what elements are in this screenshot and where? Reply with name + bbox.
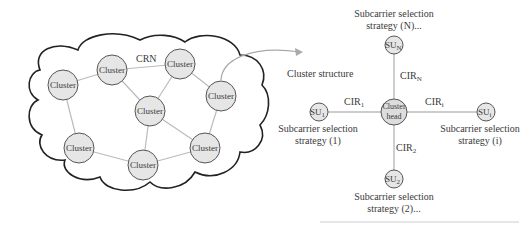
cluster-node-label: Cluster	[201, 90, 241, 102]
cluster-node-label: Cluster	[43, 79, 83, 91]
cluster-node-label: Cluster	[59, 142, 99, 154]
su-bottom-label: SU2	[385, 173, 400, 188]
caption-top: Subcarrier selection strategy (N)...	[344, 8, 444, 32]
cir-bottom-label: CIR2	[396, 142, 416, 157]
su-right-label: SUi	[478, 106, 491, 121]
cir-left-label: CIR1	[344, 96, 364, 111]
cir-right-label: CIRi	[425, 96, 444, 111]
cluster-node-label: Cluster	[160, 58, 200, 70]
cluster-structure-title: Cluster structure	[287, 68, 353, 80]
cir-top-label: CIRN	[400, 70, 422, 85]
cluster-head-line1: Cluster	[380, 102, 408, 112]
caption-bottom: Subcarrier selection strategy (2)...	[344, 191, 444, 215]
su-left-label: SU1	[310, 106, 325, 121]
caption-right: Subcarrier selection strategy (i)	[430, 123, 529, 147]
diagram-canvas	[0, 0, 529, 231]
crn-label: CRN	[136, 53, 157, 65]
cluster-node-label: Cluster	[130, 105, 170, 117]
cluster-head-label: Cluster head	[380, 102, 408, 122]
cluster-node-label: Cluster	[185, 142, 225, 154]
arrow-head-icon	[295, 48, 303, 56]
cluster-node-label: Cluster	[92, 64, 132, 76]
caption-left: Subcarrier selection strategy (1)	[268, 123, 368, 147]
cluster-node-label: Cluster	[123, 159, 163, 171]
cluster-head-line2: head	[380, 112, 408, 122]
su-top-label: SUN	[385, 39, 402, 54]
